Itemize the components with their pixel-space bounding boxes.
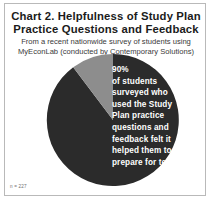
pie-callout-percent: 90% [112, 64, 186, 76]
chart-card: Chart 2. Helpfulness of Study Plan Pract… [4, 3, 206, 196]
pie-callout: 90% of students surveyed who used the St… [112, 64, 186, 168]
pie-chart: 90% of students surveyed who used the St… [5, 4, 206, 196]
sample-size-footnote: n = 227 [10, 184, 27, 189]
pie-callout-text: of students surveyed who used the Study … [112, 77, 181, 167]
